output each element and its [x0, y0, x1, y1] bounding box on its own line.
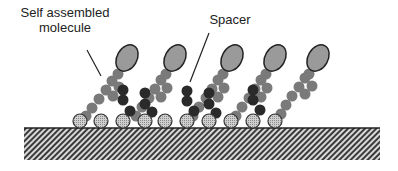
chain-bead [156, 92, 167, 103]
chain-bead [237, 102, 248, 113]
anchor-group [268, 114, 282, 128]
sam-diagram: Self assembled molecule Spacer [0, 0, 398, 171]
molecule-chains [81, 69, 318, 122]
chain-bead [94, 94, 105, 105]
spacer-bead [255, 105, 266, 116]
self_assembled-leader-line [87, 50, 101, 76]
spacer-bead [204, 88, 215, 99]
chain-bead [108, 91, 119, 102]
leader-lines [87, 33, 209, 82]
label-line-2: molecule [2, 20, 128, 35]
chain-bead [300, 89, 311, 100]
anchor-group [158, 114, 172, 128]
anchor-group [224, 114, 238, 128]
spacer-bead [118, 95, 129, 106]
anchor-group [138, 114, 152, 128]
chain-bead [287, 91, 298, 102]
label-line-1: Self assembled [2, 5, 128, 20]
anchor-group [73, 114, 87, 128]
anchor-groups [73, 114, 282, 128]
anchor-group [246, 114, 260, 128]
spacer-leader-line [190, 33, 209, 82]
chain-bead [262, 83, 273, 94]
spacer-bead [118, 85, 129, 96]
spacer-bead [204, 99, 215, 110]
chain-bead [219, 83, 230, 94]
spacer-bead [182, 86, 193, 97]
anchor-group [180, 114, 194, 128]
substrate [24, 128, 380, 160]
anchor-group [116, 114, 130, 128]
anchor-group [202, 114, 216, 128]
anchor-group [94, 114, 108, 128]
spacer-bead [248, 85, 259, 96]
self-assembled-molecule-label: Self assembled molecule [2, 5, 128, 35]
substrate-block [24, 128, 380, 160]
spacer-bead [182, 96, 193, 107]
spacer-label: Spacer [200, 12, 260, 27]
chain-bead [162, 83, 173, 94]
spacer-bead [248, 95, 259, 106]
spacer-bead [140, 88, 151, 99]
